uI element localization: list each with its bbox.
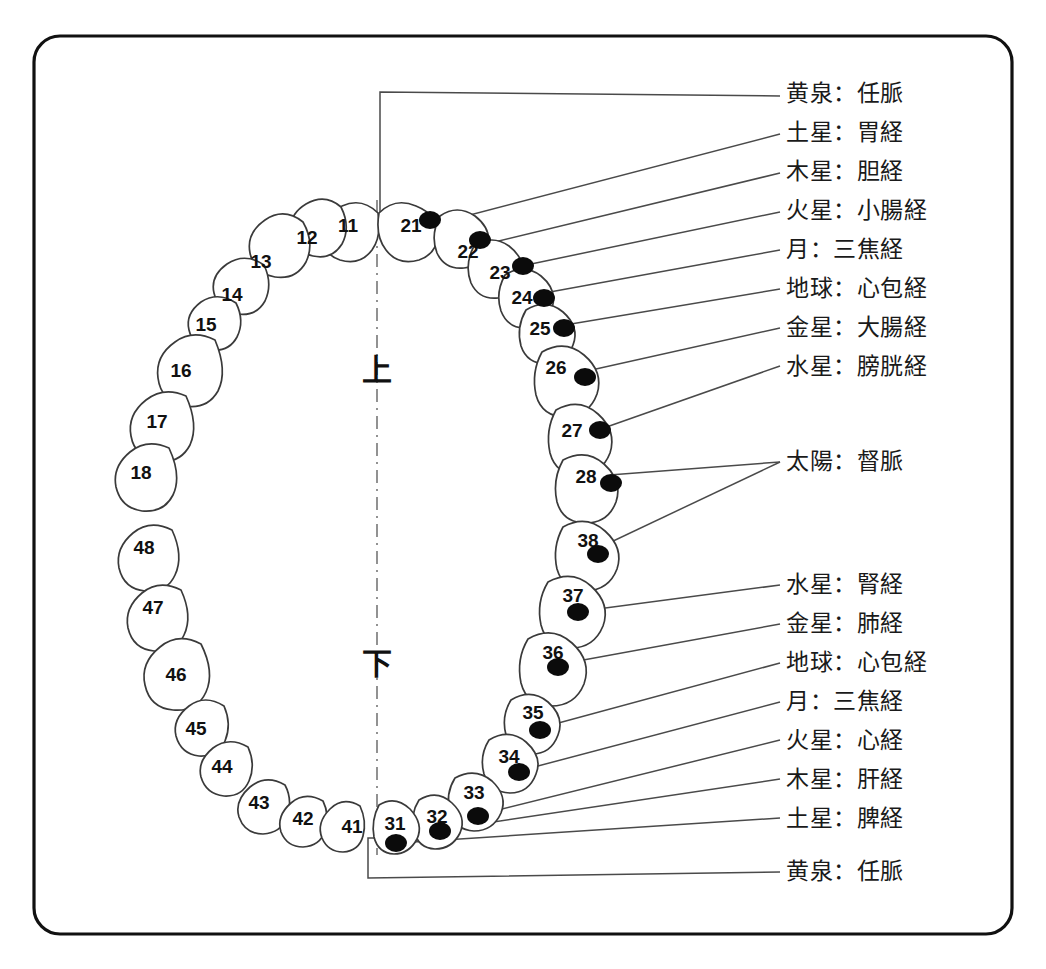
meridian-label-lower-3: 地球：心包経: [786, 651, 927, 674]
tooth-dot-38b: [587, 545, 609, 563]
meridian-label-upper-4: 火星：小腸経: [786, 199, 927, 222]
tooth-label-24: 24: [511, 287, 533, 308]
leader-line-upper-8: [598, 366, 780, 430]
tooth-dot-26: [574, 368, 596, 386]
tooth-dot-36: [547, 658, 569, 676]
meridian-label-upper-1: 黄泉：任脈: [786, 82, 904, 105]
tooth-dot-23: [512, 257, 534, 275]
tooth-label-46: 46: [165, 664, 186, 685]
tooth-dot-37: [567, 603, 589, 621]
tooth-label-47: 47: [142, 597, 163, 618]
meridian-label-sun: 太陽：督脈: [786, 450, 904, 473]
leader-line-upper-4: [512, 212, 780, 268]
tooth-label-37: 37: [562, 585, 583, 606]
leader-line-upper-2: [443, 134, 780, 222]
leader-line-upper-6: [553, 289, 780, 327]
leader-line-sun-from-38: [590, 462, 780, 552]
tooth-label-23: 23: [489, 262, 510, 283]
meridian-label-lower-1: 水星：腎経: [786, 573, 904, 596]
tooth-label-44: 44: [211, 756, 233, 777]
tooth-dot-24: [533, 289, 555, 307]
lower-left-quadrant: 48 47 46 45 44 43 42 41: [118, 525, 364, 852]
meridian-label-lower-2: 金星：肺経: [786, 612, 904, 635]
leader-line-upper-3: [470, 173, 780, 248]
tooth-label-26: 26: [545, 357, 566, 378]
meridian-label-lower-5: 火星：心経: [786, 729, 904, 752]
tooth-label-16: 16: [170, 360, 191, 381]
tooth-label-27: 27: [561, 420, 582, 441]
tooth-label-13: 13: [250, 251, 271, 272]
tooth-label-15: 15: [195, 314, 217, 335]
meridian-label-lower-8: 黄泉：任脈: [786, 860, 904, 883]
tooth-label-31: 31: [384, 813, 406, 834]
leader-line-upper-7: [578, 328, 780, 373]
dental-meridian-figure: 11 12 13 14 15 16 17 18 21 22 23 24 25 2…: [0, 0, 1046, 969]
tooth-dot-21: [419, 211, 441, 229]
tooth-dot-22: [469, 231, 491, 249]
upper-left-quadrant: 11 12 13 14 15 16 17 18: [115, 199, 379, 511]
meridian-label-lower-7: 土星：脾経: [786, 807, 904, 830]
tooth-label-18: 18: [130, 462, 151, 483]
leader-line-upper-1: [380, 92, 780, 220]
meridian-label-lower-4: 月：三焦経: [786, 690, 904, 713]
tooth-label-25: 25: [529, 318, 551, 339]
tooth-48: [118, 525, 179, 591]
tooth-dot-31: [385, 834, 407, 852]
axis-char-upper: 上: [362, 352, 392, 387]
tooth-dot-28: [600, 474, 622, 492]
axis-char-lower: 下: [362, 646, 392, 681]
tooth-label-43: 43: [248, 792, 269, 813]
tooth-label-12: 12: [296, 227, 317, 248]
leader-line-lower-1: [575, 585, 780, 612]
tooth-dot-32: [429, 822, 451, 840]
meridian-label-upper-7: 金星：大腸経: [786, 316, 927, 339]
meridian-label-upper-5: 月：三焦経: [786, 238, 904, 261]
tooth-label-41: 41: [341, 816, 363, 837]
meridian-label-upper-3: 木星：胆経: [786, 160, 904, 183]
tooth-label-21: 21: [400, 215, 422, 236]
tooth-label-42: 42: [292, 808, 313, 829]
lower-right-quadrant: 38 37 36 35 34 33 32 31: [373, 521, 619, 854]
tooth-label-14: 14: [221, 284, 243, 305]
tooth-label-35: 35: [522, 702, 544, 723]
tooth-label-17: 17: [146, 411, 167, 432]
meridian-label-upper-2: 土星：胃経: [786, 121, 904, 144]
upper-right-quadrant: 21 22 23 24 25 26 27 28: [378, 203, 622, 523]
tooth-label-33: 33: [463, 782, 484, 803]
meridian-label-upper-6: 地球：心包経: [786, 277, 927, 300]
tooth-dot-34: [508, 763, 530, 781]
tooth-dot-33: [467, 807, 489, 825]
meridian-label-lower-6: 木星：肝経: [786, 768, 904, 791]
tooth-label-48: 48: [133, 537, 154, 558]
tooth-label-28: 28: [575, 466, 596, 487]
tooth-dot-25: [553, 319, 575, 337]
meridian-label-upper-8: 水星：膀胱経: [786, 355, 927, 378]
tooth-label-45: 45: [185, 718, 207, 739]
tooth-label-11: 11: [338, 215, 359, 236]
tooth-dot-27: [589, 421, 611, 439]
tooth-dot-35: [529, 721, 551, 739]
